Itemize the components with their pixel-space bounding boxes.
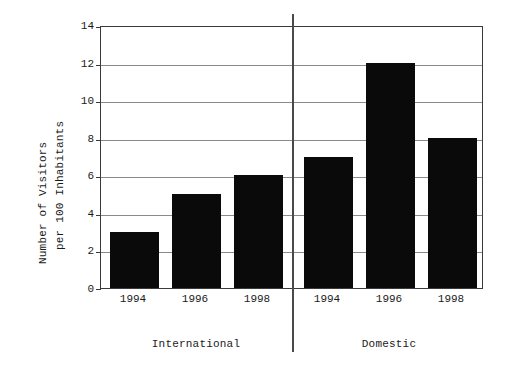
y-tick-label-14: 14: [58, 21, 94, 32]
y-tick-label-10: 10: [58, 96, 94, 107]
y-tick-mark-8: [96, 140, 101, 141]
x-axis-tick-labels: 1994 1996 1998 1994 1996 1998: [0, 294, 508, 312]
y-tick-label-4: 4: [58, 208, 94, 219]
y-tick-mark-12: [96, 65, 101, 66]
y-tick-label-8: 8: [58, 133, 94, 144]
y-tick-mark-14: [96, 27, 101, 28]
y-tick-mark-10: [96, 102, 101, 103]
y-tick-label-6: 6: [58, 171, 94, 182]
group-caption-international: International: [152, 339, 240, 350]
bar-international-1994: [110, 232, 159, 288]
group-caption-domestic: Domestic: [362, 339, 416, 350]
bar-domestic-1996: [366, 63, 415, 288]
bar-international-1996: [172, 194, 221, 288]
y-tick-label-2: 2: [58, 246, 94, 257]
bar-chart: Number of Visitors per 100 Inhabitants 0…: [0, 0, 508, 374]
bar-domestic-1998: [428, 138, 477, 288]
y-tick-label-0: 0: [58, 284, 94, 295]
y-tick-mark-4: [96, 215, 101, 216]
y-axis-title-line-1: Number of Visitors: [38, 142, 49, 264]
x-tick-label-domestic-1996: 1996: [376, 294, 402, 305]
y-axis-tick-labels: 0 2 4 6 8 10 12 14: [58, 0, 94, 374]
group-captions: International Domestic: [0, 339, 508, 359]
bar-domestic-1994: [304, 157, 353, 289]
y-tick-mark-0: [96, 289, 101, 290]
x-tick-label-international-1998: 1998: [244, 294, 270, 305]
y-tick-mark-2: [96, 252, 101, 253]
bar-international-1998: [234, 175, 283, 288]
x-tick-label-international-1994: 1994: [120, 294, 146, 305]
y-tick-label-12: 12: [58, 58, 94, 69]
y-tick-mark-6: [96, 177, 101, 178]
x-tick-label-domestic-1998: 1998: [438, 294, 464, 305]
x-tick-label-domestic-1994: 1994: [314, 294, 340, 305]
x-tick-label-international-1996: 1996: [182, 294, 208, 305]
